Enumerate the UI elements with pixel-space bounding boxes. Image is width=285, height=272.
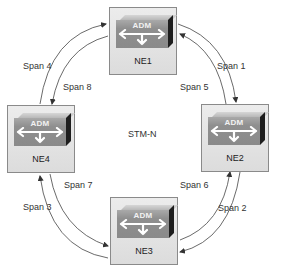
span-3-label: Span 3	[23, 202, 52, 212]
node-ne2[interactable]: ADM NE2	[201, 104, 269, 172]
adm-side-face	[168, 15, 173, 48]
span-2-label: Span 2	[218, 203, 247, 213]
adm-side-face	[169, 205, 174, 238]
node-ne1[interactable]: ADM NE1	[109, 7, 177, 75]
node-ne3[interactable]: ADM NE3	[110, 197, 178, 265]
span-5-label: Span 5	[180, 82, 209, 92]
span-4-label: Span 4	[23, 61, 52, 71]
add-drop-arrows-icon	[14, 127, 66, 145]
node-label: NE1	[110, 56, 176, 66]
node-label: NE4	[8, 154, 74, 164]
add-drop-arrows-icon	[208, 126, 260, 144]
add-drop-arrows-icon	[116, 29, 168, 47]
add-drop-arrows-icon	[117, 219, 169, 237]
span-6-label: Span 6	[180, 180, 209, 190]
span-8-link	[52, 36, 108, 104]
node-label: NE3	[111, 246, 177, 256]
node-label: NE2	[202, 153, 268, 163]
span-1-label: Span 1	[217, 61, 246, 71]
span-7-label: Span 7	[64, 180, 93, 190]
ring-type-label: STM-N	[128, 129, 157, 139]
adm-side-face	[260, 112, 265, 145]
adm-side-face	[66, 113, 71, 146]
span-8-label: Span 8	[63, 82, 92, 92]
node-ne4[interactable]: ADM NE4	[7, 105, 75, 173]
